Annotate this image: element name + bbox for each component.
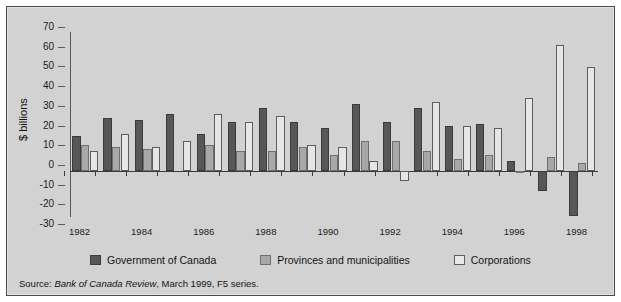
x-axis-tick-label: 1986 [184,226,224,237]
bar-prov-1992 [392,141,400,171]
bar-corp-1996 [525,98,533,171]
legend-swatch-gov-icon [90,255,101,265]
bar-corp-1984 [152,147,160,171]
bars-container [70,27,598,175]
source-rest: , March 1999, F5 series. [156,278,258,289]
bar-corp-1987 [245,122,253,171]
bar-corp-1989 [307,145,315,171]
source-publication: Bank of Canada Review [54,278,156,289]
y-axis-tick-label: 30 [20,101,54,111]
x-axis-tick-label: 1982 [60,226,100,237]
source-prefix: Source: [19,278,52,289]
bar-corp-1982 [90,151,98,171]
y-axis-tick-label: 50 [20,61,54,71]
bar-gov-1991 [352,104,360,171]
bar-gov-1988 [259,108,267,171]
bar-gov-1997 [538,171,546,191]
y-axis-tick-label: 70 [20,22,54,32]
bar-gov-1989 [290,122,298,171]
bar-corp-1986 [214,114,222,171]
legend-item-corp: Corporations [454,254,531,266]
legend-item-gov: Government of Canada [90,254,216,266]
bar-prov-1988 [268,151,276,171]
x-axis-tick-label: 1998 [556,226,596,237]
x-axis-tick-label: 1988 [246,226,286,237]
chart-panel: $ billions 706050403020100-10-20-30 1982… [6,6,615,296]
bar-corp-1988 [276,116,284,171]
bar-prov-1986 [205,145,213,171]
bar-prov-1997 [547,157,555,171]
bar-gov-1992 [383,122,391,171]
y-axis-tick-label: 60 [20,42,54,52]
bar-corp-1994 [463,126,471,171]
bar-gov-1987 [228,122,236,171]
bar-gov-1990 [321,128,329,171]
y-axis-tick [58,106,65,107]
legend: Government of Canada Provinces and munic… [7,254,614,266]
bar-prov-1995 [485,155,493,171]
legend-swatch-prov-icon [260,255,271,265]
x-axis-tick-label: 1994 [432,226,472,237]
y-axis-tick [58,86,65,87]
bar-prov-1984 [143,149,151,171]
y-axis-tick [58,185,65,186]
y-axis-label-text: $ billions [17,129,29,141]
x-axis-tick-label: 1992 [370,226,410,237]
bar-prov-1982 [81,145,89,171]
y-axis-tick-label: 10 [20,140,54,150]
bar-gov-1982 [72,136,80,171]
bar-corp-1995 [494,128,502,171]
x-axis-tick-label: 1990 [308,226,348,237]
bar-gov-1984 [135,120,143,171]
bar-prov-1991 [361,141,369,171]
bar-corp-1991 [369,161,377,171]
y-axis-tick [58,66,65,67]
bar-prov-1994 [454,159,462,171]
y-axis-tick [58,145,65,146]
x-axis-tick-label: 1996 [494,226,534,237]
bar-gov-1995 [476,124,484,171]
bar-corp-1985 [183,141,191,171]
bar-prov-1989 [299,147,307,171]
y-axis-tick-label: 40 [20,81,54,91]
legend-swatch-corp-icon [454,255,465,265]
y-axis-tick [58,27,65,28]
bar-corp-1992 [400,171,408,181]
plot-area [70,27,598,175]
bar-corp-1998 [587,67,595,171]
y-axis-tick [58,126,65,127]
bar-gov-1983 [103,118,111,171]
bar-corp-1997 [556,45,564,171]
x-axis-tick [64,171,65,176]
y-axis-tick [58,224,65,225]
source-note: Source: Bank of Canada Review, March 199… [19,278,259,289]
y-axis-tick-label: 0 [20,160,54,170]
bar-prov-1998 [578,163,586,171]
bar-corp-1993 [432,102,440,171]
y-axis-tick [58,204,65,205]
x-axis-tick-label: 1984 [122,226,162,237]
bar-prov-1996 [516,171,524,173]
y-axis-tick-label: 20 [20,121,54,131]
chart-screenshot: $ billions 706050403020100-10-20-30 1982… [0,0,621,302]
bar-prov-1983 [112,147,120,171]
bar-corp-1990 [338,147,346,171]
legend-label-gov: Government of Canada [107,254,216,266]
bar-prov-1987 [236,151,244,171]
y-axis-tick [58,47,65,48]
bar-gov-1998 [569,171,577,216]
legend-item-prov: Provinces and municipalities [260,254,409,266]
bar-prov-1993 [423,151,431,171]
bar-gov-1985 [166,114,174,171]
legend-label-prov: Provinces and municipalities [277,254,409,266]
bar-gov-1996 [507,161,515,171]
y-axis-tick-label: -10 [20,180,54,190]
bar-gov-1993 [414,108,422,171]
bar-gov-1986 [197,134,205,171]
bar-corp-1983 [121,134,129,171]
legend-label-corp: Corporations [471,254,531,266]
bar-gov-1994 [445,126,453,171]
y-axis-tick-label: -20 [20,199,54,209]
y-axis-tick [58,165,65,166]
bar-prov-1990 [330,155,338,171]
